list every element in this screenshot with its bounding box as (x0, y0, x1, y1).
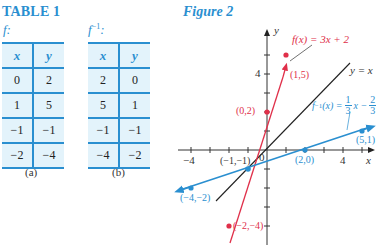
line-identity (216, 63, 350, 201)
y-axis-label: y (274, 24, 279, 36)
label-point-1-5: (1,5) (290, 69, 309, 80)
axes (178, 32, 372, 245)
point-f-neg2-neg4 (226, 223, 231, 228)
label-point-0-2: (0,2) (236, 105, 255, 116)
label-f: f(x) = 3x + 2 (292, 33, 349, 45)
label-point-neg2-neg4: (−2,−4) (233, 220, 263, 231)
label-point-neg4-neg2: (−4,−2) (180, 192, 210, 203)
point-shared-neg1-neg1 (245, 166, 251, 172)
point-f-1-5 (283, 52, 288, 57)
label-point-2-0: (2,0) (295, 154, 314, 165)
label-point-neg1-neg1: (−1,−1) (220, 155, 250, 166)
x-tick-4: 4 (340, 154, 346, 166)
x-tick-neg4: −4 (183, 154, 195, 166)
label-finv: f−1(x) = 13 x − 23 (312, 95, 378, 116)
x-axis-label: x (366, 154, 371, 166)
point-finv-2-0 (302, 147, 307, 152)
pointer-f-label (290, 45, 312, 61)
point-finv-neg4-neg2 (188, 185, 193, 190)
label-identity: y = x (350, 64, 373, 76)
y-tick-4: 4 (255, 67, 261, 79)
point-f-0-2 (264, 109, 269, 114)
point-finv-5-1 (359, 128, 364, 133)
label-point-5-1: (5,1) (356, 134, 375, 145)
origin-label: 0 (259, 151, 265, 163)
